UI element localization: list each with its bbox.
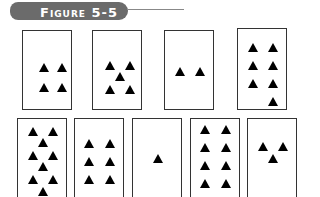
- triangle-icon: [105, 175, 115, 184]
- figure-label-pill: Figure 5-5: [10, 2, 128, 20]
- triangle-icon: [48, 127, 58, 136]
- figure-label: Figure 5-5: [40, 5, 118, 20]
- card-8: [190, 118, 240, 197]
- triangle-icon: [248, 61, 258, 70]
- card-7: [132, 118, 182, 197]
- triangle-icon: [39, 83, 49, 92]
- card-2: [92, 30, 142, 110]
- triangle-icon: [57, 63, 67, 72]
- triangle-icon: [248, 43, 258, 52]
- triangle-icon: [221, 125, 231, 134]
- triangle-icon: [258, 142, 268, 151]
- triangle-icon: [153, 154, 163, 163]
- triangle-icon: [39, 63, 49, 72]
- triangle-icon: [125, 85, 135, 94]
- triangle-icon: [48, 175, 58, 184]
- triangle-icon: [268, 79, 278, 88]
- triangle-icon: [200, 143, 210, 152]
- triangle-icon: [221, 161, 231, 170]
- triangle-icon: [125, 61, 135, 70]
- triangle-icon: [105, 61, 115, 70]
- card-5: [17, 118, 67, 197]
- triangle-icon: [248, 79, 258, 88]
- triangle-icon: [268, 61, 278, 70]
- header-rule: [128, 9, 184, 10]
- card-4: [237, 28, 287, 110]
- triangle-icon: [38, 187, 48, 196]
- triangle-icon: [221, 143, 231, 152]
- triangle-icon: [84, 157, 94, 166]
- card-1: [22, 30, 72, 110]
- triangle-icon: [38, 138, 48, 147]
- triangle-icon: [278, 142, 288, 151]
- triangle-icon: [175, 67, 185, 76]
- triangle-icon: [195, 67, 205, 76]
- triangle-icon: [48, 151, 58, 160]
- triangle-icon: [28, 127, 38, 136]
- triangle-icon: [105, 85, 115, 94]
- card-3: [164, 30, 214, 110]
- triangle-icon: [28, 175, 38, 184]
- triangle-icon: [105, 139, 115, 148]
- triangle-icon: [268, 43, 278, 52]
- triangle-icon: [38, 162, 48, 171]
- triangle-icon: [268, 97, 278, 106]
- triangle-icon: [84, 175, 94, 184]
- triangle-icon: [200, 179, 210, 188]
- triangle-icon: [200, 125, 210, 134]
- triangle-icon: [115, 72, 125, 81]
- triangle-icon: [28, 151, 38, 160]
- card-6: [74, 118, 124, 197]
- triangle-icon: [105, 157, 115, 166]
- triangle-icon: [200, 161, 210, 170]
- card-9: [247, 118, 297, 197]
- triangle-icon: [57, 83, 67, 92]
- triangle-icon: [84, 139, 94, 148]
- figure-header: Figure 5-5: [0, 0, 320, 22]
- triangle-icon: [221, 179, 231, 188]
- triangle-icon: [268, 154, 278, 163]
